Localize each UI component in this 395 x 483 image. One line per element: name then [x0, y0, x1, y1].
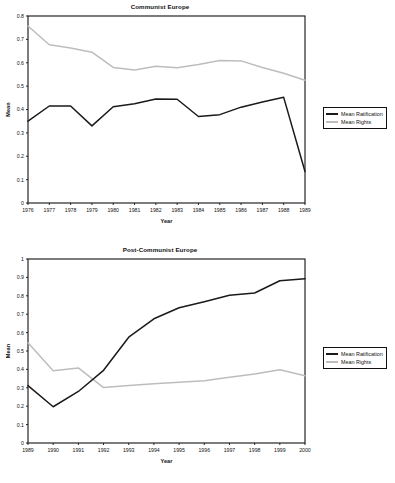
y-tick-label: 0.6 — [17, 330, 24, 336]
legend-swatch-rights — [326, 121, 338, 123]
legend-postcommunist: Mean Ratification Mean Rights — [323, 347, 387, 369]
x-tick-label: 1993 — [123, 447, 135, 453]
y-axis-title: Mean — [5, 343, 11, 358]
x-tick-label: 1984 — [193, 207, 205, 213]
legend-item-rights: Mean Rights — [326, 118, 383, 126]
plot-frame — [28, 16, 305, 203]
x-tick-label: 1990 — [47, 447, 59, 453]
y-tick-label: 0.8 — [17, 293, 24, 299]
plot-area-postcommunist: 00.10.20.30.40.50.60.70.80.9119891990199… — [0, 243, 320, 483]
y-axis-title: Mean — [5, 102, 11, 117]
x-axis-title: Year — [161, 218, 174, 224]
y-tick-label: 0.4 — [17, 366, 24, 372]
x-tick-label: 1981 — [129, 207, 141, 213]
y-tick-label: 0.8 — [17, 13, 24, 19]
x-tick-label: 1996 — [198, 447, 210, 453]
x-tick-label: 1997 — [224, 447, 236, 453]
series-line-mean-rights — [28, 343, 305, 388]
x-tick-label: 1978 — [65, 207, 77, 213]
x-tick-label: 1988 — [278, 207, 290, 213]
legend-item-ratification: Mean Ratification — [326, 110, 383, 118]
x-tick-label: 1989 — [299, 207, 311, 213]
x-tick-label: 2000 — [299, 447, 311, 453]
legend-swatch-rights — [326, 361, 338, 363]
x-tick-label: 1987 — [257, 207, 269, 213]
x-tick-label: 1985 — [214, 207, 226, 213]
y-tick-label: 0.2 — [17, 153, 24, 159]
x-tick-label: 1999 — [274, 447, 286, 453]
x-tick-label: 1991 — [73, 447, 85, 453]
y-tick-label: 0 — [21, 440, 24, 446]
y-tick-label: 0.5 — [17, 348, 24, 354]
y-tick-label: 0.9 — [17, 274, 24, 280]
y-tick-label: 0.3 — [17, 130, 24, 136]
x-tick-label: 1989 — [22, 447, 34, 453]
series-line-mean-rights — [28, 26, 305, 80]
legend-swatch-ratification — [326, 113, 338, 115]
y-tick-label: 0.1 — [17, 177, 24, 183]
y-tick-label: 0.5 — [17, 83, 24, 89]
x-tick-label: 1983 — [171, 207, 183, 213]
y-tick-label: 0.7 — [17, 36, 24, 42]
plot-area-communist: 00.10.20.30.40.50.60.70.8197619771978197… — [0, 0, 320, 240]
y-tick-label: 0.1 — [17, 422, 24, 428]
y-tick-label: 0.6 — [17, 60, 24, 66]
x-tick-label: 1995 — [173, 447, 185, 453]
x-tick-label: 1986 — [235, 207, 247, 213]
y-tick-label: 0.2 — [17, 403, 24, 409]
x-axis-title: Year — [161, 458, 174, 464]
legend-swatch-ratification — [326, 353, 338, 355]
legend-item-ratification: Mean Ratification — [326, 350, 383, 358]
y-tick-label: 0 — [21, 200, 24, 206]
chart-communist-europe: Communist Europe 00.10.20.30.40.50.60.70… — [0, 0, 395, 240]
chart-post-communist-europe: Post-Communist Europe 00.10.20.30.40.50.… — [0, 243, 395, 483]
legend-label-rights: Mean Rights — [341, 118, 371, 126]
legend-label-ratification: Mean Ratification — [341, 350, 383, 358]
x-tick-label: 1982 — [150, 207, 162, 213]
legend-communist: Mean Ratification Mean Rights — [323, 107, 387, 129]
figure-page: Communist Europe 00.10.20.30.40.50.60.70… — [0, 0, 395, 483]
x-tick-label: 1980 — [107, 207, 119, 213]
y-tick-label: 0.7 — [17, 311, 24, 317]
legend-label-rights: Mean Rights — [341, 358, 371, 366]
x-tick-label: 1998 — [249, 447, 261, 453]
y-tick-label: 0.3 — [17, 385, 24, 391]
x-tick-label: 1976 — [22, 207, 34, 213]
plot-frame — [28, 259, 305, 443]
legend-item-rights: Mean Rights — [326, 358, 383, 366]
series-line-mean-ratification — [28, 97, 305, 171]
y-tick-label: 0.4 — [17, 106, 24, 112]
legend-label-ratification: Mean Ratification — [341, 110, 383, 118]
series-line-mean-ratification — [28, 279, 305, 407]
x-tick-label: 1994 — [148, 447, 160, 453]
x-tick-label: 1992 — [98, 447, 110, 453]
x-tick-label: 1977 — [44, 207, 56, 213]
x-tick-label: 1979 — [86, 207, 98, 213]
y-tick-label: 1 — [21, 256, 24, 262]
